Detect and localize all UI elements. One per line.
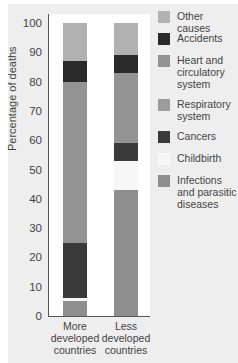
x-axis-line [48,316,150,317]
legend-label: Respiratorysystem [177,98,238,122]
y-tick-label: 80 [16,76,42,88]
y-tick-label: 60 [16,134,42,146]
y-tick-label: 20 [16,251,42,263]
y-tick-label: 70 [16,105,42,117]
y-tick-label: 10 [16,281,42,293]
legend-label: Other causes [177,10,238,34]
x-category-label: Lessdevelopedcountries [98,320,154,356]
bar-segment [114,23,138,55]
y-tick-label: 100 [16,17,42,29]
legend-swatch [158,99,170,111]
legend-label: Infectionsand parasiticdiseases [177,174,238,211]
legend-swatch [158,33,170,45]
bar-segment [63,23,87,61]
bar-segment [114,190,138,316]
legend-swatch [158,131,170,143]
bar-segment [114,143,138,161]
y-axis-label: Percentage of deaths [6,51,18,151]
y-tick-label: 90 [16,46,42,58]
y-tick-label: 0 [16,310,42,322]
legend-swatch [158,175,170,187]
legend-swatch [158,153,170,165]
legend-label: Childbirth [177,152,238,164]
bar-segment [114,73,138,143]
y-tick-label: 40 [16,193,42,205]
bar-segment [63,61,87,82]
y-axis-line [48,14,49,317]
bar-segment [63,301,87,316]
bar-segment [63,298,87,301]
bar-segment [63,243,87,299]
x-category-label: Moredevelopedcountries [47,320,103,356]
bar-segment [114,161,138,190]
bar-segment [63,82,87,243]
legend-label: Accidents [177,32,238,44]
legend-label: Heart andcirculatorysystem [177,54,238,91]
bar-segment [114,55,138,73]
legend-swatch [158,11,170,23]
y-tick-label: 30 [16,222,42,234]
y-tick-label: 50 [16,164,42,176]
legend-label: Cancers [177,130,238,142]
legend-swatch [158,55,170,67]
